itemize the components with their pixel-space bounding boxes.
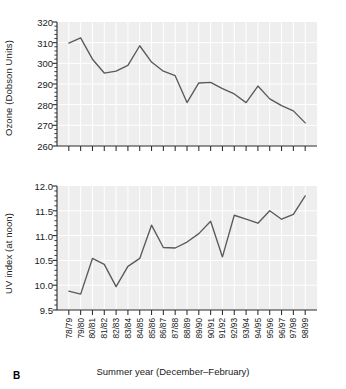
panel-letter-label: B — [13, 370, 20, 381]
uv-y-axis-title: UV index (at noon) — [3, 182, 14, 324]
uv-axis-decorations — [47, 184, 323, 324]
ozone-axis-decorations — [47, 20, 323, 160]
x-axis-title: Summer year (December–February) — [0, 366, 346, 377]
figure-panel-b: Ozone (Dobson Units) 2602702802903003103… — [0, 0, 346, 389]
ozone-y-axis-title: Ozone (Dobson Units) — [3, 18, 14, 158]
